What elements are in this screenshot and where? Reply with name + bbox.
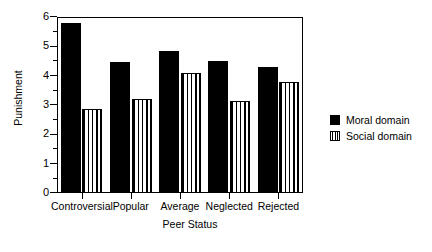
legend-item-social-domain: Social domain <box>330 129 412 143</box>
y-tick-2 <box>50 134 57 135</box>
y-tick-label-1: 1 <box>43 158 49 169</box>
y-tick-label-2: 2 <box>43 128 49 139</box>
legend-label-social: Social domain <box>346 131 412 142</box>
legend-swatch-social-icon <box>330 131 340 141</box>
legend-item-moral-domain: Moral domain <box>330 113 412 127</box>
x-tick-neglected <box>229 193 230 199</box>
bar-controversial-social <box>82 109 102 193</box>
y-tick-1 <box>50 163 57 164</box>
x-axis-title: Peer Status <box>140 218 240 230</box>
bar-popular-moral <box>110 62 130 193</box>
x-tick-controversial <box>82 193 83 199</box>
bar-rejected-moral <box>258 67 278 193</box>
x-tick-rejected <box>278 193 279 199</box>
y-tick-0 <box>50 192 57 193</box>
legend-label-moral: Moral domain <box>346 115 410 126</box>
y-tick-label-5: 5 <box>43 40 49 51</box>
bar-neglected-social <box>230 101 250 193</box>
y-tick-3 <box>50 104 57 105</box>
legend-swatch-moral-icon <box>330 115 340 125</box>
x-tick-average <box>180 193 181 199</box>
y-tick-label-0: 0 <box>43 187 49 198</box>
y-tick-4 <box>50 75 57 76</box>
y-tick-5 <box>50 46 57 47</box>
y-tick-label-3: 3 <box>43 99 49 110</box>
bar-rejected-social <box>279 82 299 193</box>
x-tick-popular <box>131 193 132 199</box>
bar-neglected-moral <box>208 61 228 193</box>
bar-average-moral <box>159 51 179 193</box>
x-tick-label-rejected: Rejected <box>248 200 309 212</box>
y-tick-label-4: 4 <box>43 70 49 81</box>
bar-chart-figure: Punishment 0123456 ControversialPopularA… <box>0 0 432 252</box>
bar-average-social <box>181 73 201 193</box>
y-tick-6 <box>50 16 57 17</box>
chart-legend: Moral domain Social domain <box>330 113 412 145</box>
bar-popular-social <box>132 99 152 193</box>
bar-controversial-moral <box>61 23 81 193</box>
bars-layer <box>57 17 303 193</box>
y-tick-label-6: 6 <box>43 11 49 22</box>
